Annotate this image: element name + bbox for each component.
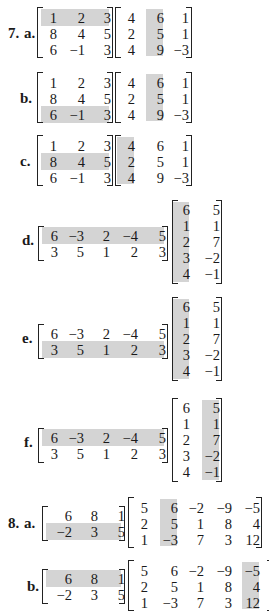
matrix-cell: 1: [50, 75, 57, 91]
problem-number: 8.: [8, 515, 19, 532]
matrix-cell: 6: [50, 42, 57, 58]
matrix-cell: 4: [183, 464, 190, 480]
matrix-cell: 2: [131, 342, 138, 358]
matrix-cell: 6: [51, 326, 58, 342]
left-matrix: 681−235: [42, 506, 125, 541]
matrix-cell: 2: [103, 326, 110, 342]
part-label: d.: [22, 232, 34, 249]
matrix-cell: 1: [182, 154, 189, 170]
matrix-cell: 2: [183, 234, 190, 250]
matrix-cell: 3: [91, 524, 98, 540]
left-bracket: [115, 135, 121, 186]
matrix-cell: 6: [171, 500, 178, 516]
matrix-cell: 6: [157, 138, 164, 154]
matrix-cell: 1: [182, 91, 189, 107]
matrix-cell: 3: [51, 244, 58, 260]
matrix-cell: 6: [50, 170, 57, 186]
matrix-cell: −5: [245, 500, 260, 516]
part-label: a.: [24, 515, 35, 532]
left-bracket: [172, 200, 178, 284]
matrix-cell: 2: [78, 138, 85, 154]
matrix-cell: 1: [50, 138, 57, 154]
matrix-cell: −3: [174, 107, 189, 123]
matrix-cell: 5: [157, 26, 164, 42]
matrix-cell: 1: [197, 579, 204, 595]
matrix-cell: −1: [205, 363, 220, 379]
matrix-cell: −2: [57, 524, 72, 540]
right-matrix: 56−2−9−5251841−37312: [128, 560, 269, 611]
matrix-cell: 1: [183, 315, 190, 331]
matrix-cell: −1: [205, 464, 220, 480]
left-matrix: 6−32−4535123: [38, 324, 168, 359]
right-bracket: [267, 560, 269, 611]
matrix-cell: 1: [213, 218, 220, 234]
matrix-cell: 8: [50, 91, 57, 107]
matrix-cell: 3: [104, 107, 111, 123]
matrix-cell: 3: [159, 446, 166, 462]
matrix-cell: 5: [157, 154, 164, 170]
left-bracket: [42, 506, 48, 541]
highlighted-row: [46, 570, 121, 587]
matrix-cell: 2: [128, 91, 135, 107]
matrix-cell: 7: [197, 595, 204, 611]
matrix-cell: 2: [128, 154, 135, 170]
matrix-cell: 4: [78, 154, 85, 170]
matrix-cell: −1: [70, 42, 85, 58]
matrix-cell: −2: [189, 563, 204, 579]
matrix-cell: −3: [163, 595, 178, 611]
matrix-cell: −2: [205, 347, 220, 363]
matrix-cell: −3: [163, 532, 178, 548]
right-matrix: 56−2−9−5251841−37312: [128, 497, 262, 548]
matrix-cell: 5: [213, 299, 220, 315]
matrix-cell: −3: [69, 430, 84, 446]
matrix-cell: 7: [197, 532, 204, 548]
matrix-cell: 1: [141, 595, 148, 611]
left-bracket: [37, 135, 43, 186]
matrix-cell: 8: [225, 579, 232, 595]
matrix-cell: 2: [78, 75, 85, 91]
matrix-cell: 3: [225, 595, 232, 611]
matrix-cell: 5: [171, 579, 178, 595]
matrix-cell: 2: [103, 228, 110, 244]
matrix-cell: 3: [104, 75, 111, 91]
matrix-cell: 1: [197, 516, 204, 532]
part-label: b.: [20, 90, 32, 107]
left-bracket: [128, 497, 134, 548]
matrix-cell: 5: [213, 202, 220, 218]
matrix-cell: 8: [91, 508, 98, 524]
matrix-cell: −4: [123, 326, 138, 342]
matrix-cell: 1: [182, 26, 189, 42]
matrix-cell: 3: [104, 42, 111, 58]
matrix-cell: 3: [51, 446, 58, 462]
matrix-cell: 1: [141, 532, 148, 548]
matrix-cell: 4: [78, 26, 85, 42]
matrix-cell: 3: [91, 587, 98, 603]
matrix-cell: −9: [217, 563, 232, 579]
matrix-cell: 6: [157, 75, 164, 91]
left-matrix: 1238456−13: [37, 72, 113, 123]
matrix-cell: −2: [205, 250, 220, 266]
matrix-cell: 12: [246, 532, 261, 548]
matrix-cell: 2: [183, 331, 190, 347]
matrix-cell: 2: [128, 26, 135, 42]
matrix-cell: 4: [128, 170, 135, 186]
matrix-cell: 9: [157, 42, 164, 58]
matrix-cell: −1: [70, 107, 85, 123]
matrix-cell: 1: [182, 75, 189, 91]
matrix-cell: 5: [159, 326, 166, 342]
matrix-cell: 2: [131, 244, 138, 260]
matrix-cell: 1: [182, 138, 189, 154]
matrix-cell: −2: [57, 587, 72, 603]
matrix-cell: 4: [128, 107, 135, 123]
left-bracket: [42, 569, 48, 604]
left-bracket: [115, 7, 121, 58]
matrix-cell: 5: [118, 524, 125, 540]
matrix-cell: 1: [50, 10, 57, 26]
matrix-cell: 1: [118, 571, 125, 587]
matrix-cell: 6: [51, 430, 58, 446]
matrix-cell: 5: [104, 154, 111, 170]
matrix-cell: 2: [103, 430, 110, 446]
left-bracket: [128, 560, 134, 611]
matrix-cell: 6: [51, 228, 58, 244]
matrix-cell: 5: [104, 91, 111, 107]
